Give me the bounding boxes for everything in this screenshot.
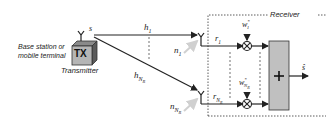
receiver-boundary: [208, 15, 326, 116]
receiver-title: Receiver: [270, 10, 300, 19]
signal-s-label: s: [89, 24, 92, 33]
branch-r1-label: r1: [215, 33, 221, 45]
noise-arrow-nr: [184, 99, 197, 111]
noise-n1-label: n1: [174, 45, 182, 57]
n1-subscript: 1: [179, 51, 182, 57]
tx-box-label: TX: [74, 48, 87, 59]
wnr-superscript: *: [244, 77, 247, 82]
weight-wnr-label: w*NR: [239, 77, 250, 90]
tx-antenna-icon: [78, 31, 84, 41]
rx-antenna-nr-icon: [198, 91, 204, 104]
tx-description-line1: Base station or: [18, 43, 65, 50]
channel-hnr-label: hNR: [134, 70, 145, 84]
output-s-hat-label: ŝ: [302, 63, 305, 72]
rx-antenna-1-icon: [198, 33, 204, 46]
branch-rnr-label: rNR: [213, 91, 222, 105]
tx-description-line2: mobile terminal: [18, 52, 65, 59]
multiplier-1-icon: [243, 42, 252, 51]
weight-w1-label: w*1: [242, 19, 249, 30]
noise-arrow-1: [184, 41, 197, 53]
w1-superscript: *: [247, 19, 250, 24]
nnr-subsubscript: R: [179, 110, 182, 115]
tx-caption: Transmitter: [61, 66, 98, 75]
multiplier-nr-icon: [243, 100, 252, 109]
noise-nnr-label: nNR: [170, 101, 181, 115]
rnr-subsubscript: R: [220, 100, 222, 105]
channel-h1-label: h1: [144, 22, 152, 34]
wnr-subsubscript: R: [247, 85, 249, 90]
r1-subscript: 1: [218, 39, 221, 45]
channel-path-nr: [94, 37, 197, 90]
hnr-subsubscript: R: [143, 79, 146, 84]
w1-subscript: 1: [247, 25, 250, 30]
h1-subscript: 1: [149, 28, 152, 34]
